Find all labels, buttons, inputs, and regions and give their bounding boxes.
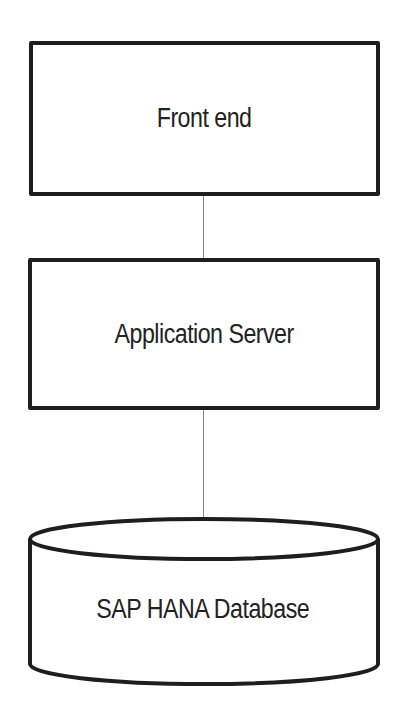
- database-node: SAP HANA Database: [28, 594, 378, 625]
- database-label: SAP HANA Database: [97, 594, 310, 625]
